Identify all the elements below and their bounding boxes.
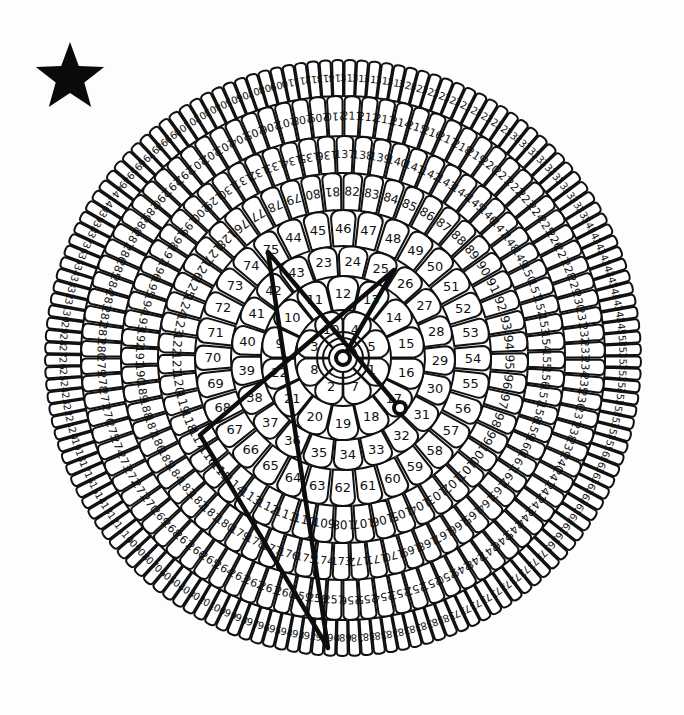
petal-70[interactable]: 70 [195, 345, 231, 370]
petal-number: 51 [443, 279, 460, 294]
start-dot [336, 351, 350, 365]
petal-number: 28 [428, 324, 445, 339]
petal-number: 27 [416, 298, 433, 313]
petal-40[interactable]: 40 [232, 326, 265, 355]
petal-number: 72 [215, 300, 232, 315]
current-dot [394, 402, 406, 414]
petal-81[interactable]: 81 [322, 173, 341, 211]
petal-39[interactable]: 39 [232, 357, 264, 385]
petal-number: 67 [226, 422, 243, 437]
petal-number: 31 [413, 407, 430, 422]
petal-number: 32 [393, 428, 410, 443]
petal-29[interactable]: 29 [424, 346, 455, 375]
petal-number: 10 [284, 310, 301, 325]
star-icon [36, 42, 104, 107]
petal-number: 34 [340, 447, 357, 462]
petal-number: 50 [427, 259, 444, 274]
petal-number: 45 [310, 223, 327, 238]
petal-number: 16 [398, 365, 415, 380]
petal-number: 40 [239, 334, 256, 349]
petal-number: 46 [335, 221, 352, 236]
petal-94[interactable]: 94 [489, 332, 527, 352]
petal-62[interactable]: 62 [330, 470, 355, 506]
petal-number: 71 [207, 325, 224, 340]
petal-46[interactable]: 46 [331, 210, 356, 246]
petal-number: 53 [462, 325, 479, 340]
petal-number: 94 [501, 334, 516, 351]
petal-number: 62 [334, 480, 351, 495]
petal-number: 26 [397, 276, 414, 291]
petal-number: 65 [262, 458, 279, 473]
petal-54[interactable]: 54 [455, 346, 491, 371]
petal-number: 60 [384, 471, 401, 486]
petal-number: 37 [262, 415, 279, 430]
petal-number: 35 [311, 445, 328, 460]
petal-82[interactable]: 82 [343, 173, 362, 211]
petal-number: 57 [443, 423, 460, 438]
petal-number: 63 [309, 478, 326, 493]
petal-number: 95 [502, 354, 516, 370]
petal-number: 55 [462, 376, 479, 391]
petal-number: 19 [335, 416, 352, 431]
petal-number: 59 [407, 459, 424, 474]
petal-number: 14 [386, 310, 403, 325]
petal-number: 81 [324, 184, 340, 199]
petal-number: 47 [360, 223, 377, 238]
petal-95[interactable]: 95 [491, 353, 528, 372]
petal-34[interactable]: 34 [334, 439, 363, 470]
petal-number: 56 [455, 401, 472, 416]
petal-number: 24 [344, 254, 361, 269]
petal-108[interactable]: 108 [332, 506, 355, 543]
petal-number: 80 [304, 186, 322, 203]
petal-121[interactable]: 121 [158, 352, 195, 375]
petal-number: 70 [205, 350, 222, 365]
petal-number: 30 [427, 381, 444, 396]
petal-number: 73 [227, 278, 244, 293]
petal-number: 61 [360, 478, 377, 493]
petal-number: 54 [465, 351, 482, 366]
petal-number: 15 [398, 336, 415, 351]
petal-number: 12 [335, 286, 352, 301]
dot-to-dot-puzzle: 2932942952962972982993003013023033043053… [0, 0, 684, 715]
petal-number: 66 [243, 442, 260, 457]
petal-number: 49 [407, 243, 424, 258]
petal-number: 29 [432, 353, 449, 368]
star-icon [36, 42, 104, 107]
petal-number: 48 [385, 231, 402, 246]
petal-number: 69 [207, 376, 224, 391]
petal-number: 58 [426, 443, 443, 458]
petal-number: 83 [363, 186, 380, 202]
petal-number: 23 [316, 255, 333, 270]
petal-number: 18 [363, 409, 380, 424]
petal-number: 33 [368, 442, 385, 457]
petal-number: 64 [285, 470, 302, 485]
petal-number: 96 [500, 373, 516, 390]
petal-19[interactable]: 19 [328, 405, 358, 440]
petal-number: 74 [243, 258, 260, 273]
petal-number: 82 [344, 184, 360, 199]
petal-number: 39 [238, 363, 255, 378]
petal-number: 41 [248, 306, 265, 321]
petal-24[interactable]: 24 [339, 246, 367, 278]
petal-number: 44 [285, 230, 302, 245]
petal-number: 52 [455, 301, 472, 316]
petal-number: 20 [307, 409, 324, 424]
